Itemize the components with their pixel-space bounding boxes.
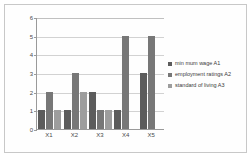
legend-item-label: employment ratings A2 (175, 72, 231, 78)
y-axis-tick-label: 0 (30, 127, 33, 133)
y-axis-tick-label: 3 (30, 71, 33, 77)
bar (105, 110, 112, 129)
bar (97, 110, 104, 129)
legend-item-label: standard of living A3 (175, 83, 225, 89)
bar (89, 92, 96, 129)
y-axis-tick-label: 2 (30, 90, 33, 96)
bar (80, 92, 87, 129)
legend-item-1: employment ratings A2 (168, 70, 246, 80)
legend: min mum wage A1 employment ratings A2 st… (168, 59, 246, 92)
x-axis-tick-label: X4 (113, 132, 139, 138)
legend-item-2: standard of living A3 (168, 81, 246, 91)
bar (148, 36, 155, 129)
bar-group (88, 18, 113, 129)
y-axis-tick-label: 1 (30, 108, 33, 114)
bar (122, 36, 129, 129)
legend-item-label: min mum wage A1 (175, 61, 220, 67)
legend-swatch-icon (168, 73, 172, 77)
x-axis-tick-label: X1 (36, 132, 62, 138)
bar (54, 110, 61, 129)
bar-group (139, 18, 164, 129)
bar (38, 110, 45, 129)
bar (46, 92, 53, 129)
bar (64, 110, 71, 129)
x-axis-tick-label: X5 (138, 132, 164, 138)
x-axis-tick-label: X3 (87, 132, 113, 138)
bar (114, 110, 121, 129)
bar-series-container (37, 18, 164, 129)
bar (140, 73, 147, 129)
bar (72, 73, 79, 129)
legend-item-0: min mum wage A1 (168, 59, 246, 69)
legend-swatch-icon (168, 84, 172, 88)
y-axis-tick-label: 5 (30, 34, 33, 40)
chart-image: 0123456 X1X2X3X4X5 min mum wage A1 emplo… (0, 0, 252, 158)
x-axis-labels: X1X2X3X4X5 (36, 132, 164, 138)
x-axis-tick-label: X2 (62, 132, 88, 138)
plot-area: 0123456 (36, 18, 164, 130)
bar-group (62, 18, 87, 129)
legend-swatch-icon (168, 62, 172, 66)
y-axis-tick-label: 4 (30, 52, 33, 58)
y-axis-tick-label: 6 (30, 15, 33, 21)
y-axis-tick-mark (34, 130, 37, 131)
bar-group (113, 18, 138, 129)
bar-group (37, 18, 62, 129)
